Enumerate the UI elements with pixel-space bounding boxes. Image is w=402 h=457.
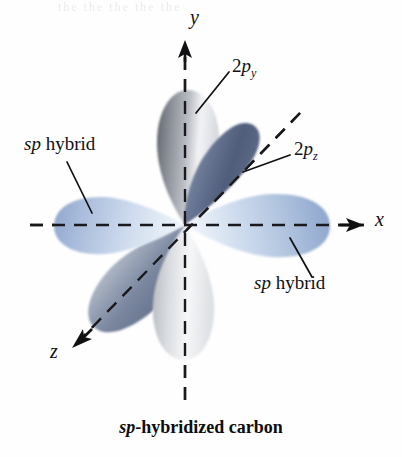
orbital-artwork	[0, 0, 402, 457]
label-sp-hybrid-right-italic: sp	[254, 272, 271, 293]
label-sp-hybrid-left: sp hybrid	[24, 133, 95, 155]
leader-2py	[196, 72, 229, 113]
figure-caption: sp-hybridized carbon	[0, 417, 402, 438]
label-2py: 2py	[232, 55, 256, 81]
label-2py-subscript: y	[251, 66, 256, 80]
figure-root: the the the the the	[0, 0, 402, 457]
label-2py-orbital: p	[242, 55, 252, 76]
y-axis-label: y	[190, 6, 199, 29]
label-sp-hybrid-left-rest: hybrid	[41, 133, 95, 154]
label-2pz-orbital: p	[304, 138, 314, 159]
orbital-diagram-canvas	[0, 0, 402, 457]
figure-caption-rest: -hybridized carbon	[135, 417, 283, 437]
figure-caption-italic: sp	[119, 417, 135, 437]
label-sp-hybrid-left-italic: sp	[24, 133, 41, 154]
label-sp-hybrid-right-rest: hybrid	[271, 272, 325, 293]
x-axis-label: x	[375, 208, 384, 231]
z-axis-label: z	[50, 340, 58, 363]
label-2pz-subscript: z	[313, 149, 318, 163]
label-sp-hybrid-right: sp hybrid	[254, 272, 325, 294]
label-2py-prefix: 2	[232, 55, 242, 76]
label-2pz-prefix: 2	[294, 138, 304, 159]
label-2pz: 2pz	[294, 138, 318, 164]
